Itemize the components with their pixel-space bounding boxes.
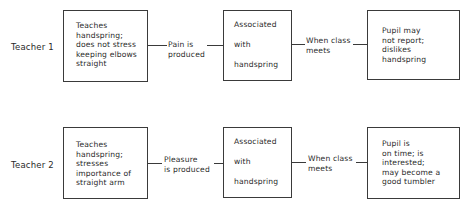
teacher-2-connector-line-1b bbox=[214, 163, 223, 164]
teacher-1-association-box: Associated with handspring bbox=[223, 10, 292, 81]
teacher-2-outcome-box: Pupil is on time; is interested; may bec… bbox=[367, 127, 460, 199]
teacher-1-connector-label-2: When class meets bbox=[306, 36, 351, 55]
teacher-2-method-box: Teaches handspring; stresses importance … bbox=[63, 127, 148, 199]
teacher-1-method-text: Teaches handspring; does not stress keep… bbox=[76, 21, 137, 69]
teacher-1-connector-line-1b bbox=[207, 45, 223, 46]
teacher-2-connector-line-1a bbox=[148, 163, 162, 164]
teacher-2-method-text: Teaches handspring; stresses importance … bbox=[76, 140, 131, 188]
teacher-1-outcome-text: Pupil may not report; dislikes handsprin… bbox=[382, 26, 426, 64]
teacher-2-connector-line-2a bbox=[292, 162, 306, 163]
teacher-1-connector-label-1: Pain is produced bbox=[168, 40, 205, 59]
teacher-1-connector-line-1a bbox=[148, 45, 167, 46]
teacher-1-label: Teacher 1 bbox=[11, 42, 54, 52]
teacher-1-connector-line-2b bbox=[353, 44, 367, 45]
teacher-2-outcome-text: Pupil is on time; is interested; may bec… bbox=[382, 139, 440, 187]
teacher-2-connector-label-2: When class meets bbox=[308, 154, 353, 173]
teacher-1-association-text: Associated with handspring bbox=[234, 15, 278, 75]
teacher-1-row: Teacher 1 Teaches handspring; does not s… bbox=[0, 10, 462, 90]
teacher-1-connector-line-2a bbox=[292, 44, 305, 45]
teacher-2-association-text: Associated with handspring bbox=[234, 132, 278, 192]
teacher-2-row: Teacher 2 Teaches handspring; stresses i… bbox=[0, 127, 462, 207]
teacher-2-connector-line-2b bbox=[356, 162, 367, 163]
teacher-2-connector-label-1: Pleasure is produced bbox=[164, 155, 210, 174]
teacher-2-label: Teacher 2 bbox=[11, 160, 54, 170]
teacher-2-association-box: Associated with handspring bbox=[223, 127, 292, 198]
teacher-1-outcome-box: Pupil may not report; dislikes handsprin… bbox=[367, 10, 460, 80]
teacher-1-method-box: Teaches handspring; does not stress keep… bbox=[63, 10, 148, 82]
